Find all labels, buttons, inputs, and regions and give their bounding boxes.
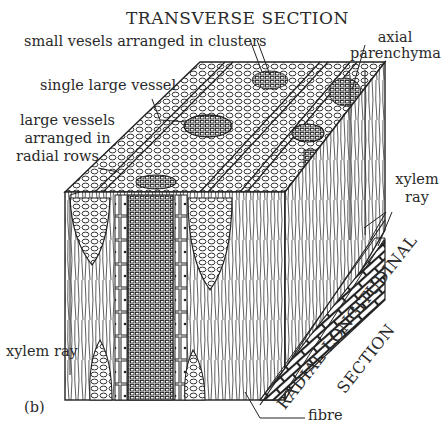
transverse-section-title: TRANSVERSE SECTION bbox=[126, 10, 349, 28]
large-vessels-label-line2: arranged in bbox=[10, 131, 125, 146]
xylem-ray-right-label-line1: xylem bbox=[390, 172, 444, 187]
large-vessels-label-line3: radial rows bbox=[0, 149, 115, 164]
axial-parenchyma-label-line1: axial bbox=[350, 30, 440, 45]
xylem-ray-right-label-line2: ray bbox=[390, 190, 444, 205]
xylem-ray-left-label: xylem ray bbox=[6, 344, 78, 359]
single-large-vessel-label: single large vessel bbox=[40, 78, 176, 93]
small-vessels-label: small vesels arranged in clusters bbox=[24, 34, 266, 49]
panel-label: (b) bbox=[24, 400, 45, 415]
wood-block-illustration bbox=[0, 0, 444, 432]
wood-block-diagram: TRANSVERSE SECTION small vesels arranged… bbox=[0, 0, 444, 432]
fibre-label: fibre bbox=[308, 408, 342, 423]
axial-parenchyma-label-line2: parenchyma bbox=[350, 46, 440, 61]
large-vessels-label-line1: large vessels bbox=[10, 113, 125, 128]
